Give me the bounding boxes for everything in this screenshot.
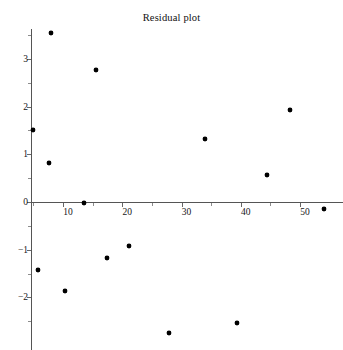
- y-minor-tick: [28, 321, 31, 322]
- data-point: [105, 256, 109, 260]
- y-tick-label-1: 1: [23, 149, 28, 159]
- data-point: [94, 68, 98, 72]
- data-point: [36, 268, 40, 272]
- y-tick-label--1: −1: [18, 245, 28, 255]
- y-minor-tick: [28, 226, 31, 227]
- data-point: [288, 108, 292, 112]
- y-minor-tick: [28, 35, 31, 36]
- y-axis-line: [31, 29, 32, 350]
- x-tick-label-30: 30: [182, 207, 192, 217]
- data-point: [127, 244, 131, 248]
- x-minor-tick: [270, 203, 271, 206]
- y-tick-label-3: 3: [23, 54, 28, 64]
- data-point: [265, 173, 269, 177]
- x-tick-label-40: 40: [241, 207, 251, 217]
- x-axis-line: [31, 202, 343, 203]
- data-point: [235, 321, 239, 325]
- data-point: [31, 128, 35, 132]
- y-tick-label-2: 2: [23, 102, 28, 112]
- data-point: [47, 161, 51, 165]
- y-minor-tick: [28, 83, 31, 84]
- x-minor-tick: [211, 203, 212, 206]
- residual-plot-figure: Residual plot 1020304050 −2−10123: [0, 0, 343, 350]
- data-point: [203, 137, 207, 141]
- x-tick-label-50: 50: [300, 207, 310, 217]
- y-tick-label--2: −2: [18, 292, 28, 302]
- x-minor-tick: [152, 203, 153, 206]
- data-point: [82, 201, 86, 205]
- y-minor-tick: [28, 178, 31, 179]
- data-point: [49, 31, 53, 35]
- plot-area: 1020304050 −2−10123: [0, 0, 343, 350]
- data-point: [167, 331, 171, 335]
- x-minor-tick: [33, 203, 34, 206]
- x-minor-tick: [93, 203, 94, 206]
- data-point: [63, 289, 67, 293]
- y-minor-tick: [28, 274, 31, 275]
- y-tick-label-0: 0: [23, 197, 28, 207]
- data-point: [322, 207, 326, 211]
- x-tick-label-20: 20: [123, 207, 133, 217]
- x-tick-label-10: 10: [63, 207, 73, 217]
